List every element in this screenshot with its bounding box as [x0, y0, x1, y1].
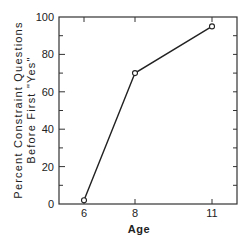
data-point-age-6: [82, 198, 87, 203]
data-point-age-11: [210, 24, 215, 29]
y-axis-title: Percent Constraint Questions Before Firs…: [12, 21, 37, 198]
y-axis-title-line2: Before First "Yes": [25, 56, 37, 163]
x-tick-11: 11: [206, 207, 217, 219]
x-ticks: [84, 17, 212, 204]
y-tick-0: 0: [48, 198, 54, 210]
y-ticks-right: [233, 36, 237, 186]
y-tick-labels: 0 20 40 60 80 100: [36, 11, 54, 210]
y-tick-100: 100: [36, 11, 54, 23]
x-tick-8: 8: [132, 207, 138, 219]
x-axis-title: Age: [128, 223, 150, 235]
chart-canvas: 0 20 40 60 80 100 6 8 11 Age Percent Con…: [0, 0, 251, 239]
data-series-line: [84, 26, 212, 200]
y-tick-40: 40: [42, 123, 54, 135]
y-tick-60: 60: [42, 86, 54, 98]
data-markers: [82, 24, 215, 203]
y-ticks-left: [59, 36, 65, 186]
y-tick-80: 80: [42, 48, 54, 60]
x-tick-labels: 6 8 11: [81, 207, 218, 219]
y-axis-title-line1: Percent Constraint Questions: [12, 21, 24, 198]
x-tick-6: 6: [81, 207, 87, 219]
plot-frame: [59, 17, 237, 204]
data-point-age-8: [133, 71, 138, 76]
y-tick-20: 20: [42, 161, 54, 173]
